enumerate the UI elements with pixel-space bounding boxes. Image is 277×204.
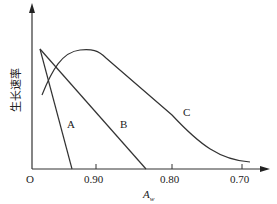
x-axis-label: Aw [142,188,155,203]
y-axis-arrow-icon [29,3,35,13]
curve-label-c: C [183,106,190,118]
tick-label-0.90: 0.90 [84,173,104,185]
origin-label: O [26,173,34,185]
tick-label-0.70: 0.70 [230,173,250,185]
curve-label-a: A [67,118,75,130]
growth-rate-chart: O 0.90 0.80 0.70 Aw 生长速率 A B C [0,0,277,204]
x-axis-arrow-icon [260,166,270,172]
curve-label-b: B [120,118,127,130]
y-axis-label: 生长速率 [9,68,23,112]
curve-c [42,50,250,162]
tick-label-0.80: 0.80 [160,173,180,185]
